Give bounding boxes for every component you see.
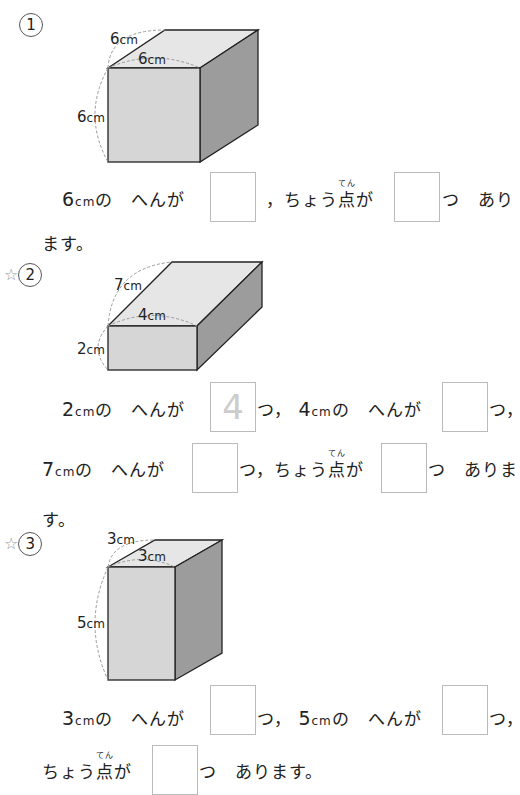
sentence-fragment: つ あります。 — [199, 758, 323, 783]
sentence-fragment: 3cmの へんが — [62, 705, 185, 730]
sentence-fragment: つ， — [489, 705, 520, 730]
answer-box[interactable] — [210, 685, 256, 735]
dimension-label: 7cm — [114, 276, 142, 294]
sentence-fragment: つ ありま — [428, 456, 518, 481]
problem-3-label: ☆3 — [4, 532, 42, 556]
answer-box[interactable] — [152, 745, 198, 795]
sentence-fragment: つ， 5cmの へんが — [257, 705, 422, 730]
dimension-label: 2cm — [77, 340, 105, 358]
dimension-label: 6cm — [77, 108, 105, 126]
problem-2-label: ☆2 — [4, 263, 42, 287]
star-icon: ☆ — [4, 265, 18, 284]
sentence-fragment: つ あり — [442, 186, 514, 211]
answer-box[interactable] — [210, 172, 256, 222]
sentence-fragment: つ， 4cmの へんが — [257, 396, 422, 421]
problem-number: 2 — [18, 263, 42, 287]
sentence-fragment: ，ちょうてん点が — [266, 186, 374, 211]
sentence-fragment: す。 — [42, 506, 76, 531]
answer-box-filled[interactable]: 4 — [210, 382, 256, 432]
star-icon: ☆ — [4, 534, 18, 553]
sentence-fragment: ちょうてん点が — [42, 758, 132, 783]
dimension-label: 4cm — [138, 306, 166, 324]
answer-box[interactable] — [442, 382, 488, 432]
answer-box[interactable] — [381, 443, 427, 493]
sentence-fragment: 2cmの へんが — [62, 396, 185, 421]
sentence-fragment: ます。 — [42, 230, 94, 255]
answer-box[interactable] — [442, 685, 488, 735]
problem-1-sentence-line1: 6cmの へんが — [62, 186, 185, 211]
answer-box[interactable] — [192, 443, 238, 493]
problem-number: 3 — [18, 532, 42, 556]
dimension-label: 3cm — [107, 530, 135, 548]
cube-figure — [95, 30, 258, 162]
dimension-label: 5cm — [77, 614, 105, 632]
sentence-fragment: つ， — [489, 396, 520, 421]
dimension-label: 3cm — [138, 547, 166, 565]
dimension-label: 6cm — [138, 50, 166, 68]
sentence-fragment: つ，ちょうてん点が — [239, 456, 364, 481]
answer-box[interactable] — [394, 172, 440, 222]
sentence-fragment: 7cmの へんが — [42, 456, 165, 481]
dimension-label: 6cm — [110, 30, 138, 48]
